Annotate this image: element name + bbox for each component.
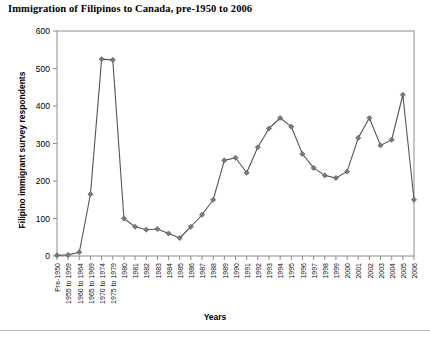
svg-text:300: 300 <box>36 139 50 149</box>
svg-text:1975 to 1979: 1975 to 1979 <box>110 263 117 304</box>
svg-text:1993: 1993 <box>266 263 273 279</box>
svg-text:1980: 1980 <box>121 263 128 279</box>
svg-text:1996: 1996 <box>300 263 307 279</box>
svg-text:2002: 2002 <box>367 263 374 279</box>
svg-text:2000: 2000 <box>344 263 351 279</box>
svg-text:1998: 1998 <box>322 263 329 279</box>
svg-text:1983: 1983 <box>155 263 162 279</box>
svg-text:1990: 1990 <box>233 263 240 279</box>
bottom-divider <box>0 330 430 331</box>
svg-text:200: 200 <box>36 176 50 186</box>
svg-text:1997: 1997 <box>311 263 318 279</box>
svg-text:2005: 2005 <box>400 263 407 279</box>
svg-text:1994: 1994 <box>277 263 284 279</box>
svg-text:1986: 1986 <box>188 263 195 279</box>
y-axis-ticks: 0100200300400500600 <box>36 26 57 261</box>
svg-text:1981: 1981 <box>132 263 139 279</box>
svg-text:2006: 2006 <box>411 263 418 279</box>
axes-frame <box>57 31 414 256</box>
svg-text:1992: 1992 <box>255 263 262 279</box>
svg-text:1989: 1989 <box>222 263 229 279</box>
svg-text:1982: 1982 <box>143 263 150 279</box>
svg-text:2003: 2003 <box>378 263 385 279</box>
data-point-markers <box>54 57 416 258</box>
svg-text:2001: 2001 <box>355 263 362 279</box>
x-axis-title: Years <box>0 312 430 322</box>
svg-text:1988: 1988 <box>210 263 217 279</box>
svg-text:1960 to 1964: 1960 to 1964 <box>77 263 84 304</box>
svg-text:1995: 1995 <box>288 263 295 279</box>
x-axis-ticks: Pre-19501955 to 19591960 to 19641965 to … <box>54 256 418 304</box>
svg-text:500: 500 <box>36 64 50 74</box>
svg-text:600: 600 <box>36 26 50 36</box>
svg-text:1999: 1999 <box>333 263 340 279</box>
svg-text:1984: 1984 <box>166 263 173 279</box>
svg-text:2004: 2004 <box>389 263 396 279</box>
svg-text:1965 to 1969: 1965 to 1969 <box>88 263 95 304</box>
svg-text:100: 100 <box>36 214 50 224</box>
svg-text:1991: 1991 <box>244 263 251 279</box>
svg-text:0: 0 <box>45 251 50 261</box>
svg-text:1970 to 1974: 1970 to 1974 <box>99 263 106 304</box>
svg-text:1955 to 1959: 1955 to 1959 <box>65 263 72 304</box>
svg-text:1985: 1985 <box>177 263 184 279</box>
svg-text:1987: 1987 <box>199 263 206 279</box>
svg-text:Pre-1950: Pre-1950 <box>54 263 61 292</box>
plot-area: 0100200300400500600 Pre-19501955 to 1959… <box>0 0 430 340</box>
chart-figure: Immigration of Filipinos to Canada, pre-… <box>0 0 430 340</box>
svg-text:400: 400 <box>36 101 50 111</box>
